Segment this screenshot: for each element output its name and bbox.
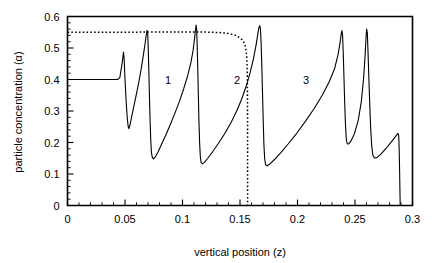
series-annotation-1: 1 [165,74,171,86]
x-tick-label: 0.25 [344,213,365,225]
y-tick-label: 0 [53,200,59,212]
x-tick-label-group: 00.050.10.150.20.250.3 [64,213,420,225]
x-tick-label: 0 [64,213,70,225]
particle-concentration-curve [68,25,401,206]
y-tick-label: 0.2 [44,137,59,149]
chart-figure: 00.050.10.150.20.250.3 00.10.20.30.40.50… [0,0,441,263]
x-tick-label: 0.2 [290,213,305,225]
y-axis-title: particle concentration (α) [12,51,24,172]
x-axis-title: vertical position (z) [194,246,286,258]
plot-frame [68,17,413,206]
y-tick-label: 0.3 [44,105,59,117]
series-annotation-3: 3 [303,74,309,86]
x-tick-label: 0.3 [405,213,420,225]
chart-plot-area: 00.050.10.150.20.250.3 00.10.20.30.40.50… [0,0,441,263]
x-tick-label: 0.05 [114,213,135,225]
x-tick-label: 0.15 [229,213,250,225]
minor-tick-group [68,23,402,206]
y-tick-label: 0.1 [44,168,59,180]
major-tick-group [68,17,413,206]
y-tick-label: 0.4 [44,74,59,86]
series-annotation-2: 2 [234,74,240,86]
x-tick-label: 0.1 [175,213,190,225]
reference-profile-curve [68,32,248,206]
y-tick-label-group: 00.10.20.30.40.50.6 [44,11,59,212]
y-tick-label: 0.6 [44,11,59,23]
y-tick-label: 0.5 [44,42,59,54]
